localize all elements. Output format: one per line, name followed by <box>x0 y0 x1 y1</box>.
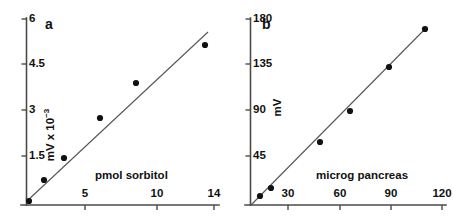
panel-a-xtick-label-5: 5 <box>82 188 88 200</box>
panel-b-data-point <box>257 193 263 199</box>
panel-b-ytick-label-45: 45 <box>253 150 266 162</box>
panel-b-data-point <box>347 108 353 114</box>
panel-b-ytick-label-135: 135 <box>253 58 272 70</box>
panel-a-y-axis-title: mV x 10−3 <box>43 109 56 162</box>
panel-a-x-axis-title: pmol sorbitol <box>95 170 168 182</box>
panel-a-xtick-label-10: 10 <box>151 188 164 200</box>
panel-b-data-point <box>268 185 274 191</box>
chart-panel-b: 180 135 90 45 30 60 90 120 mV microg pan… <box>226 0 453 220</box>
figure-container: 6 4.5 3 1.5 5 10 14 mV x 10−3 pmol sorbi… <box>0 0 453 220</box>
panel-a-ytick-label-4.5: 4.5 <box>29 58 45 70</box>
panel-b-xtick-label-30: 30 <box>282 188 295 200</box>
panel-a-data-point <box>97 115 103 121</box>
panel-b-xtick-label-60: 60 <box>334 188 347 200</box>
panel-a-data-point <box>26 198 32 204</box>
panel-b-data-point <box>386 64 392 70</box>
panel-a-ytick-label-3: 3 <box>29 104 35 116</box>
panel-b-ytick-label-90: 90 <box>253 104 266 116</box>
panel-b-letter: b <box>262 17 271 31</box>
panel-a-data-point <box>41 177 47 183</box>
panel-b-y-axis-title: mV <box>272 99 284 117</box>
panel-b-x-axis-title: microg pancreas <box>316 170 408 182</box>
panel-b-data-point <box>422 26 428 32</box>
panel-a-y-axis-title-text: mV x 10 <box>44 118 56 161</box>
panel-b-data-point <box>317 139 323 145</box>
chart-panel-a: 6 4.5 3 1.5 5 10 14 mV x 10−3 pmol sorbi… <box>0 0 226 220</box>
panel-a-ytick-label-6: 6 <box>29 13 35 25</box>
panel-b-xtick-label-120: 120 <box>432 188 451 200</box>
panel-a-y-axis-title-exponent: −3 <box>42 109 51 118</box>
panel-a-xtick-label-14: 14 <box>208 188 221 200</box>
panel-a-data-point <box>133 80 139 86</box>
panel-a-letter: a <box>45 17 53 31</box>
panel-a-data-point <box>61 155 67 161</box>
panel-a-data-point <box>202 42 208 48</box>
panel-b-xtick-label-90: 90 <box>385 188 398 200</box>
